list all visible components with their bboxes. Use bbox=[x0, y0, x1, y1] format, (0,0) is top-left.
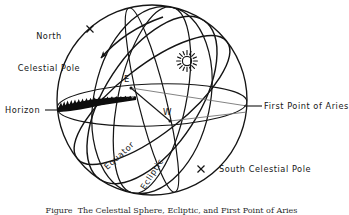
south-pole-marker-icon bbox=[198, 166, 205, 173]
south-celestial-pole-label: South Celestial Pole bbox=[219, 164, 311, 175]
figure-caption: Figure The Celestial Sphere, Ecliptic, a… bbox=[0, 206, 343, 215]
rotation-arrow-icon bbox=[101, 17, 163, 58]
first-point-of-aries-label: First Point of Aries bbox=[264, 101, 349, 112]
north-celestial-pole-label-line1: North bbox=[8, 31, 90, 42]
sun-icon bbox=[177, 51, 198, 72]
east-point-marker bbox=[130, 87, 133, 90]
north-celestial-pole-label: North Celestial Pole bbox=[8, 10, 90, 94]
west-point-label: W bbox=[163, 107, 172, 117]
east-point-label: E bbox=[124, 74, 129, 84]
west-point-marker bbox=[169, 120, 172, 123]
terrain-silhouette-icon bbox=[57, 96, 136, 112]
north-celestial-pole-label-line2: Celestial Pole bbox=[8, 63, 90, 74]
horizon-label: Horizon bbox=[5, 105, 40, 116]
